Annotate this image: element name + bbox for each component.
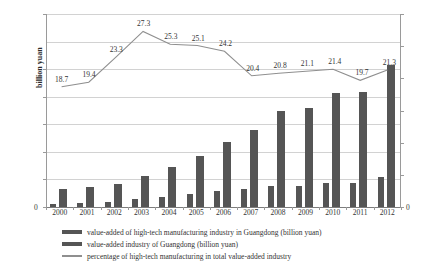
line-data-label: 24.2 <box>219 40 232 48</box>
bar-swatch-icon <box>62 242 82 246</box>
x-axis-tick <box>155 207 156 210</box>
legend-item-total: value-added industry of Guangdong (billi… <box>62 238 422 250</box>
legend-label: value-added industry of Guangdong (billi… <box>87 240 238 249</box>
line-data-label: 19.7 <box>355 69 368 77</box>
line-data-label: 20.8 <box>274 62 287 70</box>
x-axis-tick-label: 2012 <box>380 208 395 217</box>
x-axis-tick <box>346 207 347 210</box>
y2-axis-tick <box>400 143 404 144</box>
plot-area: 18.719.423.327.325.325.124.220.420.821.1… <box>46 14 401 207</box>
x-axis-tick-label: 2007 <box>243 208 258 217</box>
y2-axis-tick <box>400 46 404 47</box>
x-axis-tick-label: 2006 <box>216 208 231 217</box>
x-axis-tick-label: 2008 <box>271 208 286 217</box>
x-axis-tick-label: 2011 <box>353 208 368 217</box>
line-data-label: 19.4 <box>82 71 95 79</box>
x-axis-tick <box>210 207 211 210</box>
x-axis-tick <box>374 207 375 210</box>
line-data-label: 21.1 <box>301 60 314 68</box>
legend-label: value-added of high-tech manufacturing i… <box>87 228 322 237</box>
line-data-label: 23.3 <box>110 46 123 54</box>
x-axis-tick <box>401 207 402 210</box>
line-data-label: 21.3 <box>383 59 396 67</box>
line-data-label: 20.4 <box>246 65 259 73</box>
chart-container: 18.719.423.327.325.325.124.220.420.821.1… <box>0 0 437 274</box>
bar-swatch-icon <box>62 230 82 234</box>
y2-axis-tick <box>400 175 404 176</box>
chart-legend: value-added of high-tech manufacturing i… <box>62 226 422 262</box>
x-axis-tick-label: 2005 <box>189 208 204 217</box>
x-axis-tick <box>73 207 74 210</box>
x-axis-tick-label: 2004 <box>161 208 176 217</box>
y-axis-tick <box>43 69 47 70</box>
x-axis-tick <box>46 207 47 210</box>
y2-axis-zero-label: 0 <box>406 203 410 212</box>
y-axis-tick <box>43 152 47 153</box>
y-axis-tick <box>43 179 47 180</box>
line-data-label: 25.1 <box>192 35 205 43</box>
y2-axis-tick <box>400 14 404 15</box>
x-axis: 2000200120022003200420052006200720082009… <box>46 208 401 222</box>
x-axis-tick <box>237 207 238 210</box>
line-data-label: 21.4 <box>328 58 341 66</box>
line-data-label: 25.3 <box>164 33 177 41</box>
x-axis-tick-label: 2002 <box>107 208 122 217</box>
y-axis-tick <box>43 97 47 98</box>
legend-item-hightech: value-added of high-tech manufacturing i… <box>62 226 422 238</box>
legend-item-percentage: percentage of high-tech manufacturing in… <box>62 250 422 262</box>
line-swatch-icon <box>62 255 82 257</box>
x-axis-tick <box>183 207 184 210</box>
x-axis-tick-label: 2000 <box>52 208 67 217</box>
y-axis-title: billion yuan <box>35 47 44 88</box>
x-axis-tick-label: 2009 <box>298 208 313 217</box>
x-axis-tick <box>128 207 129 210</box>
y2-axis-tick <box>400 111 404 112</box>
x-axis-tick <box>264 207 265 210</box>
x-axis-tick <box>292 207 293 210</box>
line-data-label: 18.7 <box>55 76 68 84</box>
x-axis-tick-label: 2010 <box>325 208 340 217</box>
y-axis-zero-label: 0 <box>34 203 38 212</box>
x-axis-tick <box>319 207 320 210</box>
legend-label: percentage of high-tech manufacturing in… <box>87 252 291 261</box>
x-axis-tick-label: 2001 <box>79 208 94 217</box>
y-axis-tick <box>43 14 47 15</box>
x-axis-tick <box>101 207 102 210</box>
y2-axis-tick <box>400 78 404 79</box>
line-data-label: 27.3 <box>137 20 150 28</box>
cropped-title-text <box>78 0 348 8</box>
y-axis-tick <box>43 124 47 125</box>
x-axis-tick-label: 2003 <box>134 208 149 217</box>
